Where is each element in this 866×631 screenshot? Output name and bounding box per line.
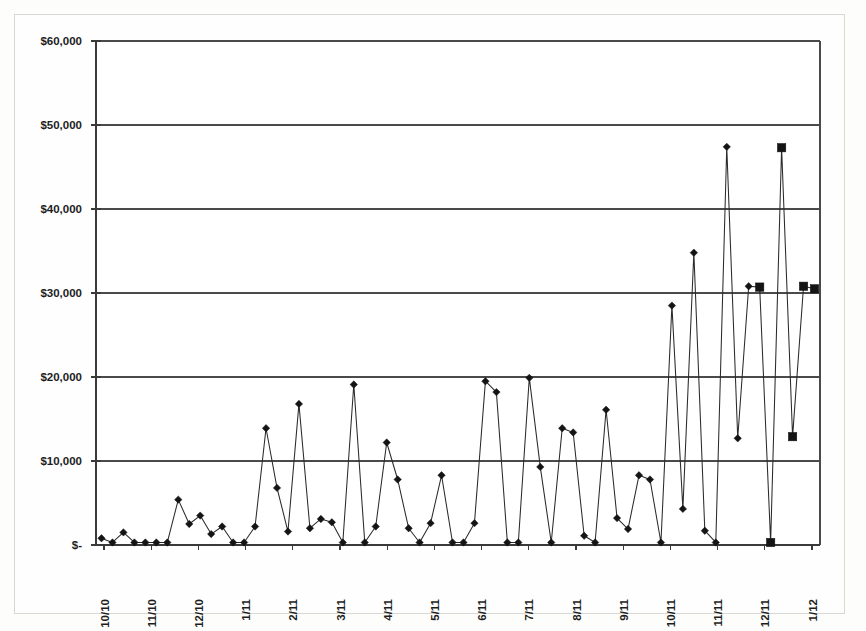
x-tick-label: 12/10 xyxy=(193,599,205,628)
x-tick-label: 8/11 xyxy=(571,598,583,620)
x-tick-label: 4/11 xyxy=(382,598,394,620)
x-tick-label: 1/11 xyxy=(240,598,252,620)
x-tick-label: 10/10 xyxy=(99,599,111,628)
x-tick-label: 7/11 xyxy=(523,598,535,620)
data-point-marker-square xyxy=(766,538,774,546)
data-point-marker-square xyxy=(788,432,796,440)
y-tick-label: $30,000 xyxy=(40,287,82,299)
data-point-marker-square xyxy=(777,143,785,151)
x-tick-label: 2/11 xyxy=(287,598,299,620)
y-tick-label: $60,000 xyxy=(40,35,82,47)
y-tick-label: $20,000 xyxy=(40,371,82,383)
line-chart-svg: $-$10,000$20,000$30,000$40,000$50,000$60… xyxy=(0,0,866,631)
x-tick-label: 6/11 xyxy=(476,598,488,620)
y-tick-label: $10,000 xyxy=(40,455,82,467)
x-tick-label: 3/11 xyxy=(335,598,347,620)
x-tick-label: 10/11 xyxy=(665,598,677,627)
x-tick-label: 12/11 xyxy=(759,598,771,627)
x-tick-label: 11/11 xyxy=(712,598,724,626)
x-axis-ticks: 10/1011/1012/101/112/113/114/115/116/117… xyxy=(99,545,819,628)
x-tick-label: 5/11 xyxy=(429,598,441,620)
y-tick-label: $50,000 xyxy=(40,119,82,131)
data-point-marker-square xyxy=(799,282,807,290)
data-point-marker-square xyxy=(755,283,763,291)
x-tick-label: 9/11 xyxy=(618,598,630,620)
x-tick-label: 1/12 xyxy=(807,599,819,621)
y-tick-label: $40,000 xyxy=(40,203,82,215)
y-tick-label: $- xyxy=(72,539,82,551)
chart-root: $-$10,000$20,000$30,000$40,000$50,000$60… xyxy=(0,0,866,631)
x-tick-label: 11/10 xyxy=(146,599,158,627)
chart-plot-wrapper: $-$10,000$20,000$30,000$40,000$50,000$60… xyxy=(0,0,866,631)
y-axis-ticks: $-$10,000$20,000$30,000$40,000$50,000$60… xyxy=(40,35,101,551)
data-point-marker-square xyxy=(810,285,818,293)
